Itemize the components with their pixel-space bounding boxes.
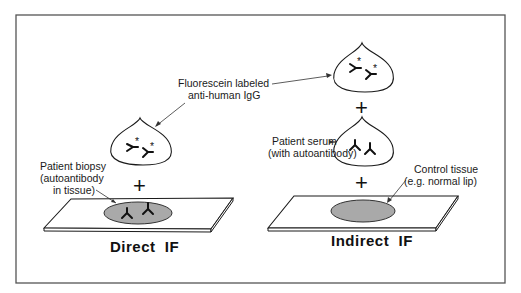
fluorescein-droplet-direct: * * xyxy=(111,118,172,165)
biopsy-label-line3: in tissue) xyxy=(53,184,95,196)
slide-direct xyxy=(44,198,233,232)
indirect-if-title: Indirect IF xyxy=(331,232,413,249)
direct-if-title: Direct IF xyxy=(110,238,179,255)
control-tissue xyxy=(331,200,395,222)
control-label-line1: Control tissue xyxy=(414,163,478,175)
plus-sign-indirect-top: + xyxy=(355,95,368,120)
control-label-line2: (e.g. normal lip) xyxy=(404,175,477,187)
biopsy-label-line1: Patient biopsy xyxy=(40,160,107,172)
fluorescein-droplet-indirect: * * xyxy=(334,43,394,92)
fluorescein-asterisk: * xyxy=(373,62,377,74)
arrowhead-icon xyxy=(326,73,332,78)
fluorescein-arrow-direct xyxy=(156,103,185,126)
diagram-frame xyxy=(16,15,505,283)
fluorescein-asterisk: * xyxy=(357,55,361,67)
serum-label-line1: Patient serum xyxy=(272,135,337,147)
fluorescein-asterisk: * xyxy=(150,140,154,152)
plus-sign-direct: + xyxy=(133,173,146,198)
fluorescein-label-line2: anti-human IgG xyxy=(188,89,260,101)
slide-indirect xyxy=(268,196,458,231)
arrowhead-icon xyxy=(155,121,161,127)
plus-sign-indirect-bottom: + xyxy=(355,170,368,195)
fluorescein-asterisk: * xyxy=(135,135,139,147)
serum-label-line2: (with autoantibody) xyxy=(268,147,357,159)
fluorescein-arrow-indirect xyxy=(272,76,328,84)
biopsy-label-line2: (autoantibody xyxy=(40,172,104,184)
patient-biopsy-tissue xyxy=(104,202,172,224)
fluorescein-label-line1: Fluorescein labeled xyxy=(178,77,269,89)
immunofluorescence-diagram: * * + Patient biopsy (autoantibody in ti… xyxy=(0,0,521,293)
